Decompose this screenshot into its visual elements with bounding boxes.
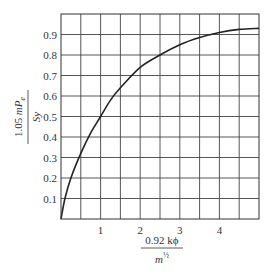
y-tick-label: 0.5 [43,111,57,123]
y-axis-label: 1.05 mPe Sy [12,90,42,144]
y-tick-label: 0.4 [43,131,57,143]
y-tick-labels: 0.10.20.30.40.50.60.70.80.9 [43,29,57,205]
x-tick-label: 2 [137,224,143,236]
x-label-numerator-text: 0.92 kϕ [145,234,179,246]
x-axis-label-numerator: 0.92 kϕ [145,234,179,246]
y-tick-label: 0.7 [43,70,57,82]
y-tick-label: 0.2 [43,172,57,184]
y-axis-label-denominator: Sy [30,112,42,123]
y-tick-label: 0.8 [43,49,57,61]
x-tick-label: 1 [98,224,104,236]
x-axis-label-denominator: m½ [155,251,169,265]
grid [61,14,259,219]
y-tick-label: 0.1 [43,193,57,205]
y-tick-label: 0.3 [43,152,57,164]
y-axis-label-numerator: 1.05 mPe [12,96,27,137]
y-tick-label: 0.6 [43,90,57,102]
x-axis-label: 0.92 kϕ m½ [141,234,183,265]
x-tick-label: 4 [217,224,223,236]
chart: 0.10.20.30.40.50.60.70.80.9 1234 1.05 mP… [0,0,271,274]
y-tick-label: 0.9 [43,29,57,41]
